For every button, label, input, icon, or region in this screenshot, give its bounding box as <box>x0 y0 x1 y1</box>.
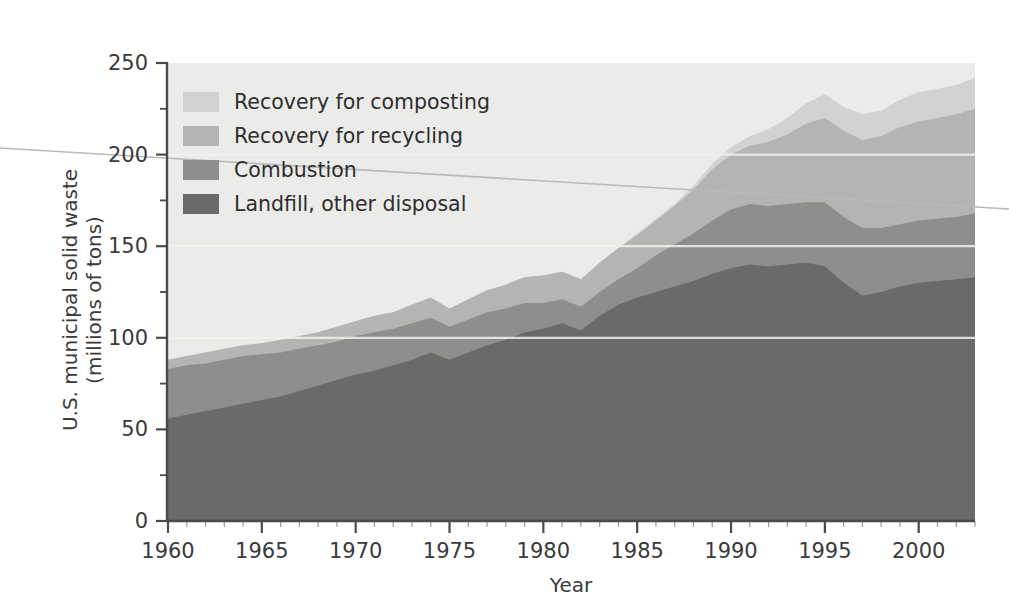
x-tick-label-1975: 1975 <box>423 539 476 563</box>
y-axis-title-line1: U.S. municipal solid waste <box>58 169 82 431</box>
legend-label-3: Landfill, other disposal <box>234 192 466 216</box>
x-tick-label-1995: 1995 <box>798 539 851 563</box>
y-tick-label-150: 150 <box>108 234 148 258</box>
x-tick-label-2000: 2000 <box>892 539 945 563</box>
x-tick-label-1960: 1960 <box>141 539 194 563</box>
legend-label-0: Recovery for composting <box>234 90 490 114</box>
legend-swatch-composting <box>183 92 219 112</box>
legend-swatch-recycling <box>183 126 219 146</box>
legend-label-1: Recovery for recycling <box>234 124 463 148</box>
x-axis-tick-labels: 196019651970197519801985199019952000 <box>141 539 945 563</box>
x-tick-label-1990: 1990 <box>704 539 757 563</box>
y-tick-label-0: 0 <box>135 509 148 533</box>
y-tick-label-100: 100 <box>108 326 148 350</box>
x-tick-label-1970: 1970 <box>329 539 382 563</box>
y-tick-label-250: 250 <box>108 51 148 75</box>
y-tick-label-200: 200 <box>108 143 148 167</box>
y-tick-label-50: 50 <box>121 417 148 441</box>
x-tick-label-1985: 1985 <box>610 539 663 563</box>
stacked-area-chart: 050100150200250 196019651970197519801985… <box>0 0 1009 612</box>
x-tick-label-1965: 1965 <box>235 539 288 563</box>
y-axis-title-line2: (millions of tons) <box>82 216 106 384</box>
legend-swatch-combustion <box>183 160 219 180</box>
x-tick-label-1980: 1980 <box>517 539 570 563</box>
legend-label-2: Combustion <box>234 158 357 182</box>
chart-figure: 050100150200250 196019651970197519801985… <box>0 0 1009 612</box>
x-axis-title: Year <box>549 573 593 597</box>
legend-swatch-landfill <box>183 194 219 214</box>
